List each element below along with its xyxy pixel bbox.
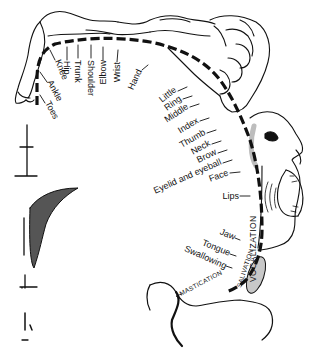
label-toes: Toes — [43, 99, 61, 121]
label-hip: Hip — [62, 61, 72, 75]
label-lips: Lips — [222, 191, 239, 201]
label-elbow: Elbow — [98, 60, 108, 85]
label-ankle: Ankle — [45, 78, 64, 103]
body-part-labels: Toes Ankle Knee Hip Trunk Shoulder Elbow… — [43, 58, 239, 271]
label-shoulder: Shoulder — [86, 60, 96, 96]
label-trunk: Trunk — [73, 60, 83, 83]
label-wrist: Wrist — [112, 62, 122, 83]
motor-homunculus-diagram: Toes Ankle Knee Hip Trunk Shoulder Elbow… — [0, 0, 321, 355]
section-sketches — [15, 125, 78, 340]
label-mastication: MASTICATION — [178, 269, 223, 297]
label-hand: Hand — [126, 68, 144, 92]
label-jaw: Jaw — [218, 227, 237, 242]
